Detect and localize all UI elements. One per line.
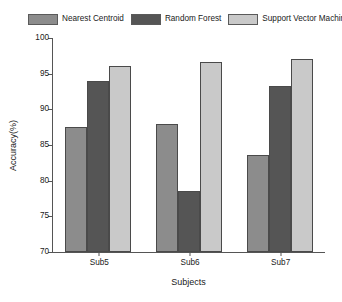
y-tick-label: 100 [35, 34, 49, 42]
bar-groups [53, 38, 325, 252]
bar[interactable] [109, 66, 131, 252]
legend-entry[interactable]: Random Forest [131, 14, 221, 25]
x-tick-mark [280, 252, 281, 256]
y-tick-label: 75 [40, 212, 49, 220]
chart-legend: Nearest CentroidRandom ForestSupport Vec… [0, 10, 342, 28]
legend-label: Nearest Centroid [62, 15, 124, 23]
legend-swatch [28, 14, 58, 25]
bar[interactable] [65, 127, 87, 252]
x-tick-mark [99, 252, 100, 256]
y-tick-label: 90 [40, 105, 49, 113]
bar[interactable] [247, 155, 269, 252]
y-axis-label: Accuracy(%) [6, 38, 20, 253]
x-tick-label: Sub5 [90, 259, 109, 267]
bar[interactable] [87, 81, 109, 252]
legend-entry[interactable]: Nearest Centroid [28, 14, 124, 25]
bar-group [156, 38, 222, 252]
bar[interactable] [200, 62, 222, 252]
bar-group [247, 38, 313, 252]
bar[interactable] [269, 86, 291, 252]
legend-swatch [131, 14, 161, 25]
y-tick-label: 70 [40, 248, 49, 256]
x-tick-label: Sub7 [271, 259, 290, 267]
legend-label: Support Vector Machine [262, 15, 342, 23]
x-axis-label: Subjects [52, 277, 325, 287]
legend-swatch [228, 14, 258, 25]
legend-label: Random Forest [165, 15, 221, 23]
x-tick-mark [189, 252, 190, 256]
y-tick-label: 80 [40, 177, 49, 185]
bar-group [65, 38, 131, 252]
bar[interactable] [291, 59, 313, 252]
y-tick-label: 85 [40, 141, 49, 149]
x-tick-label: Sub6 [180, 259, 199, 267]
bar[interactable] [156, 124, 178, 252]
bar[interactable] [178, 191, 200, 252]
legend-entry[interactable]: Support Vector Machine [228, 14, 342, 25]
y-tick-label: 95 [40, 70, 49, 78]
plot-area: 707580859095100 Sub5Sub6Sub7 [52, 38, 325, 253]
bar-chart-figure: Nearest CentroidRandom ForestSupport Vec… [0, 0, 342, 302]
